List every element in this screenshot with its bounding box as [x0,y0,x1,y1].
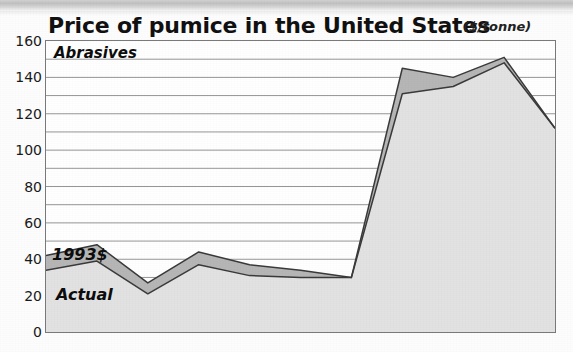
y-tick-120: 120 [0,106,42,122]
y-tick-0: 0 [0,324,42,340]
title-row: Price of pumice in the United States ($/… [0,13,573,41]
y-tick-80: 80 [0,179,42,195]
y-tick-20: 20 [0,288,42,304]
y-tick-140: 140 [0,69,42,85]
page-title: Price of pumice in the United States [48,13,490,38]
y-axis-tick-labels: 160140120100806040200 [0,40,42,333]
annotation-abrasives: Abrasives [54,44,137,62]
chart-canvas [46,41,555,332]
y-tick-40: 40 [0,251,42,267]
annotation-actual: Actual [56,285,113,304]
y-tick-160: 160 [0,33,42,49]
annotation-constant-dollars: 1993$ [52,245,108,264]
y-tick-100: 100 [0,142,42,158]
y-tick-60: 60 [0,215,42,231]
unit-label: ($/tonne) [463,19,531,34]
chart-figure: Price of pumice in the United States ($/… [0,0,573,352]
series-area-actual [46,63,555,332]
plot-area [45,40,556,333]
series-layer [46,57,555,332]
